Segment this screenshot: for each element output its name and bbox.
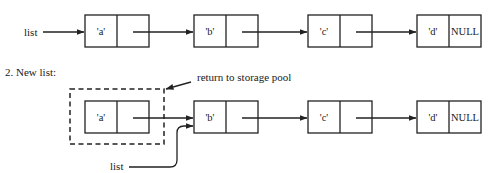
annotation-arrow — [166, 82, 191, 89]
list-pointer-label: list — [24, 26, 37, 38]
node-value: 'a' — [97, 112, 106, 123]
node-a-freed: 'a' — [85, 101, 149, 133]
node-value: 'a' — [97, 26, 106, 37]
node-c: 'c' — [308, 101, 372, 133]
node-value: 'b' — [205, 26, 214, 37]
node-a: 'a' — [85, 15, 149, 47]
node-b: 'b' — [194, 101, 258, 133]
node-value: 'c' — [320, 26, 329, 37]
node-value: 'b' — [205, 112, 214, 123]
null-pointer-label: NULL — [451, 26, 479, 37]
node-b: 'b' — [194, 15, 258, 47]
storage-pool-annotation: return to storage pool — [197, 71, 291, 83]
node-c: 'c' — [308, 15, 372, 47]
node-value: 'd' — [428, 26, 437, 37]
node-d: 'd' NULL — [417, 15, 481, 47]
new-list-row: 2. New list: return to storage pool 'a' … — [5, 66, 481, 172]
node-d: 'd' NULL — [417, 101, 481, 133]
original-list-row: list 'a' 'b' 'c' 'd' NULL — [24, 15, 481, 47]
new-list-heading: 2. New list: — [5, 66, 56, 78]
node-value: 'd' — [428, 112, 437, 123]
node-value: 'c' — [320, 112, 329, 123]
list-pointer-label: list — [110, 160, 123, 172]
linked-list-diagram: list 'a' 'b' 'c' 'd' NULL — [0, 0, 493, 173]
null-pointer-label: NULL — [451, 112, 479, 123]
